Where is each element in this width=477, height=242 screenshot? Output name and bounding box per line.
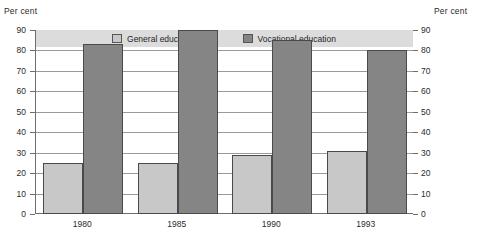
bar-group <box>320 30 415 214</box>
bar-general <box>232 155 272 214</box>
x-tick-label: 1980 <box>47 219 117 229</box>
y-tick-label-right: 80 <box>421 45 441 55</box>
y-tick-label-left: 40 <box>6 127 26 137</box>
y-tick-label-left: 90 <box>6 25 26 35</box>
y-tick-label-right: 50 <box>421 107 441 117</box>
x-tick-label: 1990 <box>236 219 306 229</box>
y-tick-label-left: 30 <box>6 148 26 158</box>
right-axis-title: Per cent <box>434 6 467 16</box>
bars-layer <box>36 30 413 214</box>
bar-vocational <box>272 40 312 214</box>
left-axis-title: Per cent <box>4 6 37 16</box>
y-tick-label-right: 20 <box>421 168 441 178</box>
y-tick-right <box>413 214 418 215</box>
y-tick-label-right: 70 <box>421 66 441 76</box>
y-tick-label-right: 30 <box>421 148 441 158</box>
bar-group <box>225 30 320 214</box>
y-tick-label-left: 0 <box>6 209 26 219</box>
y-tick-label-left: 80 <box>6 45 26 55</box>
chart-container: Per cent Per cent 9080706050403020100 90… <box>0 0 477 242</box>
y-tick-label-right: 10 <box>421 189 441 199</box>
x-tick-label: 1993 <box>331 219 401 229</box>
y-tick-label-left: 60 <box>6 86 26 96</box>
bar-general <box>43 163 83 214</box>
bar-general <box>327 151 367 214</box>
y-tick-label-right: 0 <box>421 209 441 219</box>
y-tick-label-left: 70 <box>6 66 26 76</box>
y-tick-label-right: 90 <box>421 25 441 35</box>
y-tick-label-right: 40 <box>421 127 441 137</box>
y-tick-left <box>30 214 35 215</box>
bar-vocational <box>178 30 218 214</box>
y-tick-label-left: 50 <box>6 107 26 117</box>
bar-vocational <box>367 50 407 214</box>
bar-vocational <box>83 44 123 214</box>
x-tick-label: 1985 <box>142 219 212 229</box>
bar-group <box>36 30 131 214</box>
y-tick-label-left: 10 <box>6 189 26 199</box>
y-tick-label-right: 60 <box>421 86 441 96</box>
bar-general <box>138 163 178 214</box>
bar-group <box>131 30 226 214</box>
y-tick-label-left: 20 <box>6 168 26 178</box>
